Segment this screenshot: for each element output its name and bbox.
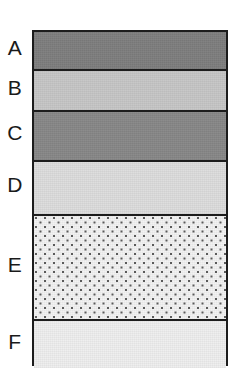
layer-label-b: B <box>0 77 30 98</box>
layer-texture-f <box>34 321 226 368</box>
layer-texture-a <box>34 32 226 69</box>
layer-label-d: D <box>0 174 30 195</box>
layer-label-f: F <box>0 331 30 352</box>
stratigraphic-layer-f <box>34 319 226 368</box>
stratigraphic-layer-c <box>34 110 226 160</box>
layer-texture-b <box>34 71 226 110</box>
stratigraphic-layer-a <box>34 32 226 69</box>
stratigraphic-layer-b <box>34 69 226 110</box>
stipple-pattern-icon <box>34 216 226 319</box>
layer-label-c: C <box>0 122 30 143</box>
layer-texture-c <box>34 112 226 160</box>
layer-texture-e <box>34 216 226 319</box>
stratigraphic-column <box>32 30 228 366</box>
layer-label-e: E <box>0 254 30 275</box>
layer-label-a: A <box>0 37 30 58</box>
layer-texture-d <box>34 162 226 214</box>
stratigraphic-layer-e <box>34 214 226 319</box>
stratigraphic-layer-d <box>34 160 226 214</box>
figure-canvas: ABCDEF <box>0 0 242 378</box>
